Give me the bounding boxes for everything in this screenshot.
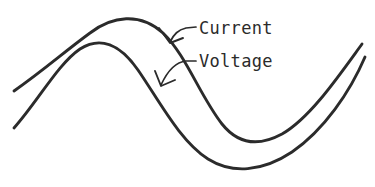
waveform-figure: Current Voltage (0, 0, 375, 187)
current-label: Current (199, 20, 273, 37)
voltage-label: Voltage (199, 53, 273, 70)
waveform-illustration (0, 0, 375, 187)
